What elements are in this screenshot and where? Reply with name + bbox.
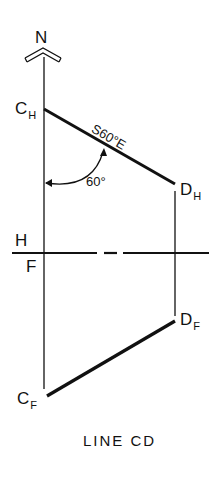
north-label: N <box>35 29 47 46</box>
point-subscript: F <box>30 399 37 411</box>
arrowhead-icon <box>100 148 107 156</box>
north-arrow-icon <box>25 48 61 62</box>
line-cd-frontal-view <box>47 321 175 396</box>
angle-label: 60° <box>86 175 106 188</box>
point-subscript: H <box>28 109 36 121</box>
point-letter: C <box>17 389 29 408</box>
point-d-h-label: DH <box>180 181 201 198</box>
point-subscript: H <box>193 190 201 202</box>
point-c-h-label: CH <box>15 100 36 117</box>
point-c-f-label: CF <box>17 390 37 407</box>
caption: LINE CD <box>83 433 156 448</box>
point-d-f-label: DF <box>180 311 200 328</box>
point-letter: D <box>180 180 192 199</box>
point-letter: C <box>15 99 27 118</box>
fold-label-f: F <box>26 258 36 275</box>
arrowhead-icon <box>45 179 52 187</box>
point-subscript: F <box>193 320 200 332</box>
point-letter: D <box>180 310 192 329</box>
fold-label-h: H <box>15 232 27 249</box>
